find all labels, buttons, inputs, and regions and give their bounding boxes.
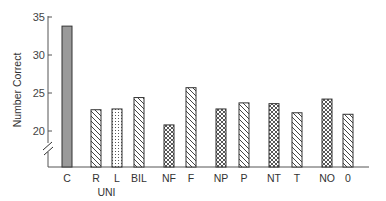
y-tick-label: 20 [33, 125, 45, 137]
bar-nt [269, 104, 279, 167]
bar-no [322, 99, 332, 167]
y-axis: 20253035 [33, 11, 369, 167]
x-tick-label: NF [162, 172, 176, 184]
x-tick-label: R [92, 172, 100, 184]
y-tick-label: 25 [33, 87, 45, 99]
bar-f [186, 88, 196, 167]
bar-chart: 20253035 CRLBILNFFNPPNTTNO0UNI Number Co… [0, 0, 386, 201]
x-tick-label: L [114, 172, 120, 184]
bar-bil [134, 98, 144, 167]
bar-r [91, 110, 101, 167]
x-axis-labels: CRLBILNFFNPPNTTNO0UNI [63, 172, 351, 198]
bar-np [216, 109, 226, 167]
x-tick-label: T [294, 172, 301, 184]
bar-p [239, 103, 249, 167]
x-tick-label: P [240, 172, 247, 184]
bar-t [292, 113, 302, 167]
y-tick-label: 30 [33, 49, 45, 61]
x-tick-label: C [63, 172, 71, 184]
x-tick-label: 0 [345, 172, 351, 184]
bar-c [62, 26, 72, 167]
x-tick-label: F [188, 172, 194, 184]
bars [62, 26, 353, 167]
bar-nf [164, 125, 174, 167]
group-label: UNI [97, 186, 115, 198]
bar-0 [343, 114, 353, 167]
bar-l [112, 109, 122, 167]
x-tick-label: NT [267, 172, 282, 184]
x-tick-label: NO [319, 172, 335, 184]
x-tick-label: NP [214, 172, 229, 184]
x-tick-label: BIL [131, 172, 147, 184]
y-axis-title: Number Correct [11, 53, 23, 128]
y-tick-label: 35 [33, 11, 45, 23]
